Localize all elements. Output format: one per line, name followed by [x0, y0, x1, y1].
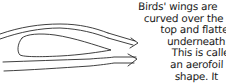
- arrow-upper-body: [108, 33, 135, 45]
- caption-line-1: Birds' wings are: [138, 1, 226, 13]
- caption-line-7: shape. It: [136, 71, 226, 83]
- aerofoil-diagram-panel: Birds' wings are curved over the top and…: [0, 0, 226, 84]
- caption-line-6: an aerofoil: [136, 59, 226, 71]
- wing-cross-section: [18, 34, 111, 57]
- airflow-line-bottom-lower: [4, 63, 134, 71]
- airflow-line-bottom-upper: [3, 57, 136, 62]
- caption-text: Birds' wings are curved over the top and…: [136, 1, 226, 82]
